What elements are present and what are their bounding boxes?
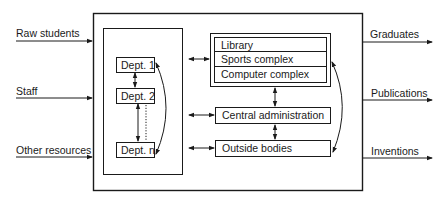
output-label-inventions: Inventions	[371, 146, 419, 157]
dept-n-label: Dept. n	[121, 145, 155, 156]
facility-library: Library	[215, 38, 326, 52]
central-administration-box: Central administration	[215, 107, 331, 124]
input-label-other-resources: Other resources	[16, 145, 91, 156]
input-label-raw-students: Raw students	[16, 28, 80, 39]
outside-bodies-label: Outside bodies	[222, 143, 292, 154]
dept-n-box: Dept. n	[116, 142, 155, 158]
outside-bodies-box: Outside bodies	[215, 140, 331, 157]
input-label-staff: Staff	[16, 86, 37, 97]
facilities-box: Library Sports complex Computer complex	[214, 37, 327, 83]
output-label-graduates: Graduates	[370, 29, 419, 40]
output-label-publications: Publications	[371, 88, 428, 99]
dept-1-box: Dept. 1	[116, 57, 155, 73]
dept-1-label: Dept. 1	[121, 60, 155, 71]
dept-2-label: Dept. 2	[121, 91, 155, 102]
facility-computer-complex: Computer complex	[215, 67, 326, 82]
dept-2-box: Dept. 2	[116, 88, 155, 104]
facility-sports-complex: Sports complex	[215, 52, 326, 67]
central-administration-label: Central administration	[222, 110, 324, 121]
facilities-outside-curve	[332, 62, 342, 152]
dept1-deptn-curve	[156, 63, 166, 154]
